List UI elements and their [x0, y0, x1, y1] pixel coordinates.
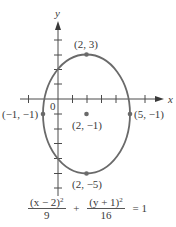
point-label-bottom: (2, −5)	[72, 178, 102, 191]
y-axis-arrow-icon	[55, 21, 61, 30]
term1-numerator: (x − 2)	[30, 196, 60, 208]
equation-rhs: = 1	[133, 202, 147, 214]
point-label-left: (−1, −1)	[2, 108, 39, 121]
point-label-right: (5, −1)	[134, 108, 164, 121]
point-label-top: (2, 3)	[74, 38, 98, 51]
equation-plus: +	[73, 202, 79, 214]
point-bottom	[84, 171, 89, 176]
x-axis-label: x	[167, 93, 173, 105]
point-center	[84, 112, 89, 117]
term2-denominator: 16	[87, 209, 125, 221]
term1-exponent: 2	[60, 196, 64, 204]
term2-numerator: (y + 1)	[89, 196, 119, 208]
ellipse-equation: (x − 2)2 9 + (y + 1)2 16 = 1	[0, 194, 176, 221]
x-axis-arrow-icon	[155, 96, 164, 102]
equation-term-y: (y + 1)2 16	[87, 194, 125, 221]
y-axis-label: y	[54, 7, 60, 19]
ellipse-diagram: x y 0 (2, 3) (−1, −1) (2, −1) (5, −	[0, 0, 176, 200]
term2-exponent: 2	[119, 196, 123, 204]
origin-label: 0	[50, 100, 56, 112]
y-axis: y 0	[50, 7, 62, 196]
point-label-center: (2, −1)	[72, 119, 102, 132]
point-left	[41, 112, 46, 117]
point-right	[128, 112, 133, 117]
equation-term-x: (x − 2)2 9	[28, 194, 66, 221]
point-top	[84, 52, 89, 57]
term1-denominator: 9	[28, 209, 66, 221]
